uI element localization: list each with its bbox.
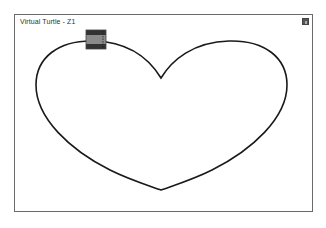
turtle-sprite <box>86 30 106 49</box>
turtle-canvas <box>0 0 326 228</box>
heart-path <box>36 41 287 190</box>
